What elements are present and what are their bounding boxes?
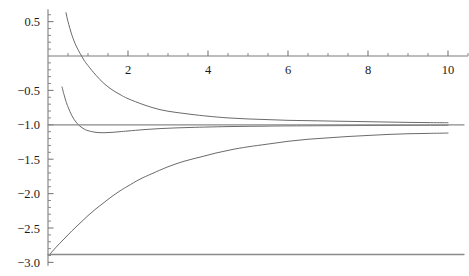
data-series-layer [48, 13, 464, 255]
plot-figure: 246810 0.5−0.5−1.0−1.5−2.0−2.5−3.0 [0, 0, 469, 276]
y-tick-label--2.0: −2.0 [17, 187, 40, 201]
x-tick-label-6: 6 [285, 63, 291, 77]
y-tick-label--1.5: −1.5 [17, 153, 40, 167]
plot-canvas: 246810 0.5−0.5−1.0−1.5−2.0−2.5−3.0 [0, 0, 469, 276]
y-tick-label--0.5: −0.5 [17, 84, 40, 98]
series-upper-decaying-curve [66, 13, 448, 123]
series-middle-dipping-curve [62, 87, 448, 133]
x-tick-label-10: 10 [442, 63, 455, 77]
y-tick-label--1.0: −1.0 [17, 118, 40, 132]
y-tick-label-0.5: 0.5 [24, 15, 40, 29]
y-tick-label--3.0: −3.0 [17, 256, 40, 270]
y-axis-major-ticks [48, 22, 54, 263]
series-lower-rising-curve [50, 133, 448, 254]
x-axis-tick-labels: 246810 [125, 63, 454, 77]
x-tick-label-8: 8 [365, 63, 371, 77]
y-tick-label--2.5: −2.5 [17, 222, 40, 236]
x-axis-major-ticks [128, 51, 448, 57]
x-tick-label-2: 2 [125, 63, 131, 77]
y-axis-tick-labels: 0.5−0.5−1.0−1.5−2.0−2.5−3.0 [17, 15, 40, 270]
x-tick-label-4: 4 [205, 63, 212, 77]
